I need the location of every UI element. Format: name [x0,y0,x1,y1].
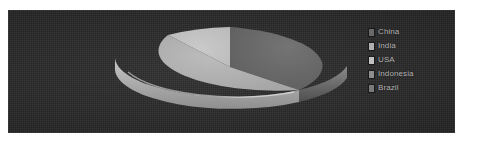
legend-item-brazil[interactable]: Brazil [369,81,455,95]
pie-chart-svg [8,10,358,133]
legend-item-indonesia[interactable]: Indonesia [369,67,455,81]
legend-label-china: China [378,27,399,37]
legend-swatch-usa [369,57,374,64]
pie-chart-plot-area [8,10,358,133]
legend-label-indonesia: Indonesia [378,69,414,79]
legend-swatch-china [369,29,374,36]
chart-panel: China India USA Indonesia Brazil [8,10,455,133]
legend-item-usa[interactable]: USA [369,53,455,67]
screenshot-root: China India USA Indonesia Brazil [0,0,479,148]
chart-legend: China India USA Indonesia Brazil [369,25,455,95]
legend-swatch-india [369,43,374,50]
legend-label-usa: USA [378,55,395,65]
legend-item-india[interactable]: India [369,39,455,53]
legend-swatch-indonesia [369,71,374,78]
legend-swatch-brazil [369,85,374,92]
legend-label-brazil: Brazil [378,83,399,93]
legend-item-china[interactable]: China [369,25,455,39]
legend-label-india: India [378,41,396,51]
